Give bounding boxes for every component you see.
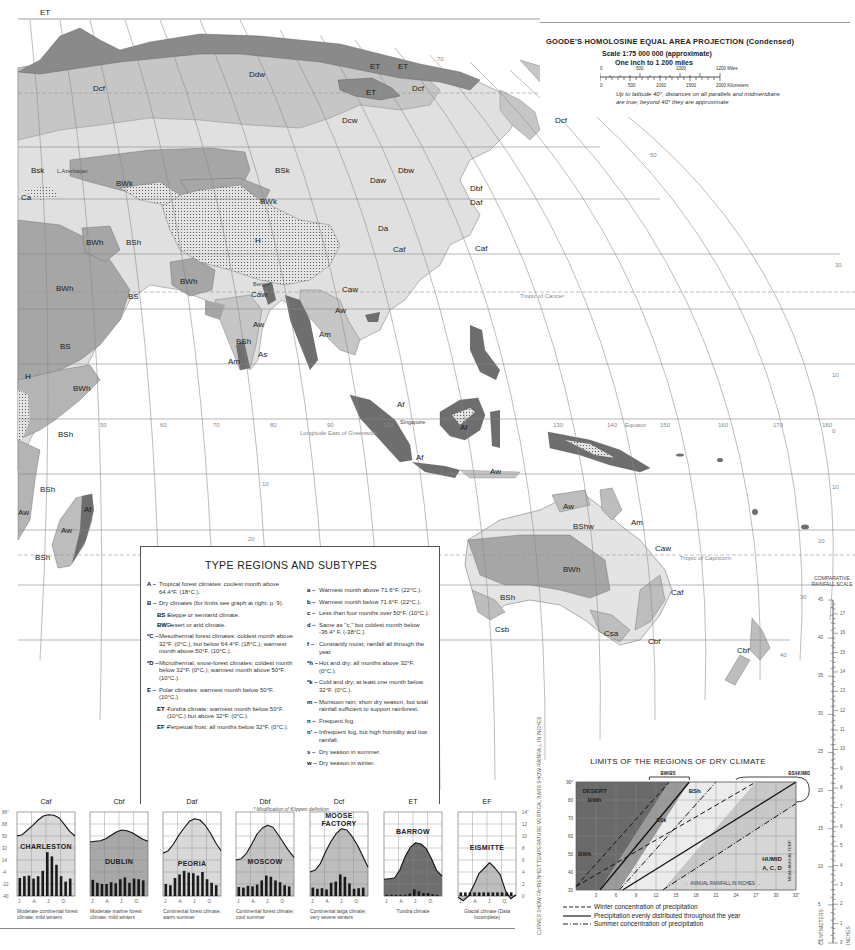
climograph-rain-tick: 0 [522, 894, 525, 899]
graticule-label: 50 [650, 152, 657, 158]
climograph-city: MOSCOW [234, 858, 296, 865]
climograph-rain-tick: 4 [522, 870, 525, 875]
region-label: BSh [40, 485, 55, 494]
climograph-temp-tick: 14 [2, 858, 7, 863]
rainfall-cm-tick: 10 [818, 864, 823, 869]
region-label: BS [128, 292, 139, 301]
region-label: Caw [655, 544, 671, 553]
climograph-chart: J.A.J.O. [161, 810, 223, 905]
legend-key: c – [307, 610, 315, 618]
svg-text:J.: J. [488, 899, 492, 904]
dash-dot-line-icon [563, 922, 591, 926]
graticule-label: 10 [262, 481, 269, 487]
legend-key: *h – [307, 660, 318, 668]
rainfall-inch-tick: 2 [840, 901, 843, 906]
legend-text: Dry climates (for limits see graph at ri… [159, 600, 283, 606]
region-label: Dcf [412, 84, 424, 93]
region-label: Cbf [648, 637, 660, 646]
region-label: BWk [260, 197, 277, 206]
legend-text: Hot and dry; all months above 32°F. (0°C… [319, 660, 414, 674]
graticule-label: Tropic of Capricorn [680, 555, 731, 561]
graticule-label: 70 [213, 422, 220, 428]
svg-text:30: 30 [568, 888, 574, 893]
svg-text:A.: A. [474, 899, 478, 904]
rainfall-cm-tick: 15 [818, 826, 823, 831]
region-label: Csb [495, 625, 509, 634]
legend-entry: *C –Mesothermal forest climates: coldest… [147, 633, 295, 656]
svg-text:A.: A. [179, 899, 183, 904]
rainfall-inch-tick: 16 [840, 630, 845, 635]
region-label: H [255, 236, 261, 245]
legend-text: Tropical forest climates: coolest month … [159, 581, 279, 595]
projection-note: Up to latitude 40°, distances on all par… [616, 90, 786, 106]
legend-entry: A –Tropical forest climates: coolest mon… [147, 581, 295, 596]
svg-text:J.: J. [47, 899, 51, 904]
svg-text:J.: J. [91, 899, 95, 904]
rainfall-inch-tick: 15 [840, 650, 845, 655]
climograph-temp-tick: 68 [2, 822, 7, 827]
region-label: Caw [342, 285, 358, 294]
region-label: Dbf [470, 184, 482, 193]
legend-entry: d –Same as "c," but coldest month below … [307, 622, 433, 637]
svg-text:O.: O. [62, 899, 67, 904]
climograph-type: Dbf [234, 798, 296, 805]
svg-text:DESERT: DESERT [582, 788, 607, 794]
svg-text:60: 60 [568, 834, 574, 839]
climograph-city: EISMITTE [456, 844, 518, 851]
legend-entry: EF –Perpetual frost: all months below 32… [147, 724, 295, 732]
legend-key: *k – [307, 679, 318, 687]
rainfall-cm-tick: 40 [818, 635, 823, 640]
rainfall-inch-tick: 13 [840, 688, 845, 693]
svg-text:21: 21 [713, 893, 719, 898]
climograph-temp-tick: 86° [2, 810, 9, 815]
climograph-rain-tick: 8 [522, 846, 525, 851]
region-label: ET [398, 62, 408, 71]
svg-text:J.: J. [414, 899, 418, 904]
region-label: Csa [604, 629, 618, 638]
legend-summer: Summer concentration of precipitation [563, 920, 740, 929]
legend-key: E – [147, 687, 156, 695]
svg-text:J.: J. [266, 899, 270, 904]
legend-entry: B –Dry climates (for limits see graph at… [147, 600, 295, 608]
svg-text:J.: J. [193, 899, 197, 904]
climograph-temp-tick: -4 [2, 870, 6, 875]
climograph-caption: Continental taiga climate; very severe w… [310, 908, 372, 920]
legend-text: Cold and dry; at least one month below 3… [319, 679, 423, 693]
region-label: Am [631, 518, 643, 527]
dry-climate-chart-title: LIMITS OF THE REGIONS OF DRY CLIMATE [558, 757, 798, 766]
region-label: ET [366, 88, 376, 97]
region-label: BSh [58, 430, 73, 439]
region-label: Aw [253, 320, 264, 329]
legend-text: Constantly moist; rainfall all through t… [319, 641, 424, 655]
region-label: Caf [393, 245, 405, 254]
svg-text:BWh: BWh [588, 797, 602, 803]
region-label: H [25, 372, 31, 381]
climograph-caption: Moderate continental forest climate; mil… [17, 908, 79, 920]
rainfall-inch-tick: 0 [840, 940, 843, 945]
rainfall-scale-title: COMPARATIVE RAINFALL SCALE [808, 575, 855, 587]
graticule-label: 40 [780, 652, 787, 658]
climograph-caption: Glacial climate (Data incomplete) [456, 908, 518, 920]
region-label: Caf [475, 244, 487, 253]
rainfall-inch-tick: 7 [840, 804, 843, 809]
rainfall-inch-tick: 8 [840, 785, 843, 790]
svg-text:O.: O. [503, 899, 508, 904]
rainfall-inch-label: INCHES [845, 926, 851, 945]
graticule-label: 10 [832, 484, 839, 490]
legend-entry: *D –Microthermal, snow-forest climates: … [147, 660, 295, 683]
svg-text:24: 24 [733, 893, 739, 898]
legend-text: Tundra climate: warmest month below 50°F… [167, 706, 284, 720]
svg-text:33": 33" [793, 893, 800, 898]
legend-entry: BW –Desert or arid climate. [147, 622, 295, 630]
graticule-label: Longitude East of Greenwich [300, 430, 377, 436]
svg-text:40: 40 [568, 870, 574, 875]
legend-entry: n' –Infrequent fog, but high humidity an… [307, 729, 433, 744]
legend-entry: E –Polar climates: warmest month below 5… [147, 687, 295, 702]
climograph-rain-tick: 10 [522, 834, 527, 839]
graticule-label: 70 [437, 56, 444, 62]
legend-entry: n –Frequent fog. [307, 718, 433, 726]
region-label: Caf [671, 588, 683, 597]
graticule-label: 30 [835, 262, 842, 268]
legend-text: Warmest month above 71.6°F. (22°C.). [319, 587, 422, 593]
legend-text: Polar climates: warmest month below 50°F… [159, 687, 274, 701]
